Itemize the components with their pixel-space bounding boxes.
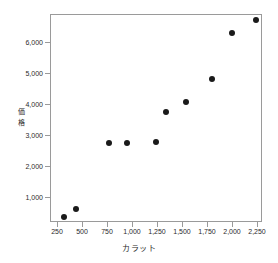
- x-axis-tick-label: 1,250: [148, 228, 166, 235]
- x-axis-tick: [257, 222, 258, 227]
- x-axis-tick: [107, 222, 108, 227]
- x-axis-tick-label: 750: [101, 228, 113, 235]
- data-point: [153, 139, 159, 145]
- data-point: [73, 206, 79, 212]
- x-axis-tick: [82, 222, 83, 227]
- data-point: [61, 214, 67, 220]
- y-axis-title-char: 価: [16, 106, 26, 117]
- x-axis-tick-label: 1,000: [123, 228, 141, 235]
- y-axis-tick-label: 2,000: [25, 162, 43, 169]
- y-axis-tick-label: 5,000: [25, 69, 43, 76]
- plot-area: [51, 15, 261, 221]
- data-point: [253, 17, 259, 23]
- x-axis: カラット 2505007501,0001,2501,5001,7502,0002…: [0, 222, 278, 263]
- data-point: [124, 140, 130, 146]
- x-axis-tick-label: 2,250: [248, 228, 266, 235]
- x-axis-tick: [232, 222, 233, 227]
- y-axis-title-char: 格: [16, 117, 26, 128]
- x-axis-tick: [207, 222, 208, 227]
- y-axis-tick-label: 6,000: [25, 38, 43, 45]
- x-axis-tick-label: 2,000: [223, 228, 241, 235]
- x-axis-tick: [157, 222, 158, 227]
- x-axis-tick-label: 500: [76, 228, 88, 235]
- x-axis-tick-label: 250: [51, 228, 63, 235]
- y-axis-tick-label: 1,000: [25, 193, 43, 200]
- x-axis-title: カラット: [0, 242, 278, 253]
- x-axis-tick: [182, 222, 183, 227]
- x-axis-tick-label: 1,750: [198, 228, 216, 235]
- y-axis-tick-label: 4,000: [25, 100, 43, 107]
- x-axis-tick: [57, 222, 58, 227]
- plot-frame: [50, 14, 262, 222]
- scatter-chart-figure: 価格 1,0002,0003,0004,0005,0006,000 カラット 2…: [0, 0, 278, 263]
- data-point: [183, 99, 189, 105]
- data-point: [163, 109, 169, 115]
- data-point: [229, 30, 235, 36]
- y-axis-tick-label: 3,000: [25, 131, 43, 138]
- x-axis-tick: [132, 222, 133, 227]
- y-axis-title: 価格: [16, 106, 26, 128]
- data-point: [209, 76, 215, 82]
- data-point: [106, 140, 112, 146]
- x-axis-tick-label: 1,500: [173, 228, 191, 235]
